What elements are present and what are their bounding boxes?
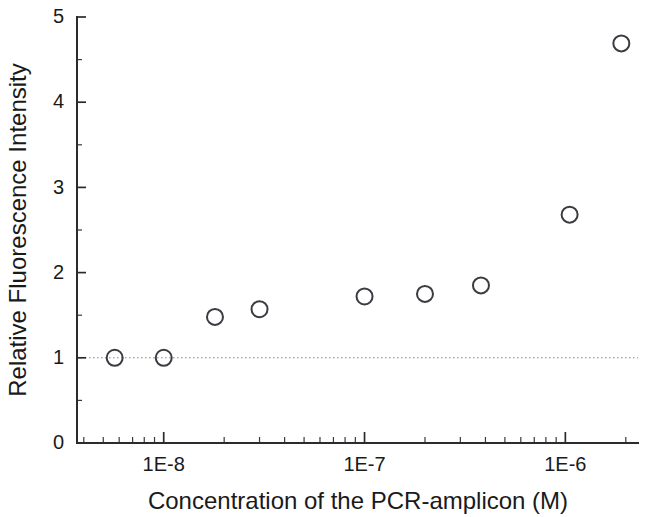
data-point-marker bbox=[357, 288, 373, 304]
x-axis-title: Concentration of the PCR-amplicon (M) bbox=[148, 487, 568, 514]
x-axis-tick-label: 1E-7 bbox=[343, 453, 385, 475]
scatter-plot: 012345 1E-81E-71E-6 Concentration of the… bbox=[0, 0, 646, 517]
y-axis-tick-label: 1 bbox=[53, 346, 64, 368]
data-point-marker bbox=[207, 309, 223, 325]
y-axis-tick-label: 2 bbox=[53, 261, 64, 283]
data-point-marker bbox=[562, 207, 578, 223]
y-axis-tick-label: 3 bbox=[53, 176, 64, 198]
data-point-marker bbox=[417, 286, 433, 302]
x-axis-tick-label: 1E-6 bbox=[544, 453, 586, 475]
figure-container: 012345 1E-81E-71E-6 Concentration of the… bbox=[0, 0, 646, 517]
y-axis-title: Relative Fluorescence Intensity bbox=[4, 63, 31, 397]
data-point-marker bbox=[252, 301, 268, 317]
y-axis-tick-label: 5 bbox=[53, 5, 64, 27]
y-axis-tick-label: 0 bbox=[53, 431, 64, 453]
x-axis-tick-label-group: 1E-81E-71E-6 bbox=[143, 453, 587, 475]
data-point-group bbox=[107, 35, 630, 365]
x-axis-tick-label: 1E-8 bbox=[143, 453, 185, 475]
y-axis-tick-label: 4 bbox=[53, 90, 64, 112]
data-point-marker bbox=[473, 277, 489, 293]
data-point-marker bbox=[613, 35, 629, 51]
y-axis-tick-label-group: 012345 bbox=[53, 5, 64, 453]
